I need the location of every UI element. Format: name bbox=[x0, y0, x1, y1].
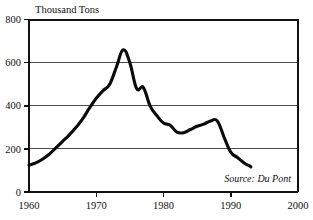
source-note: Source: Du Pont bbox=[224, 173, 291, 184]
line-chart: 0200400600800 19601970198019902000 Thous… bbox=[0, 0, 313, 220]
y-tick-label: 400 bbox=[5, 100, 21, 111]
x-tick-label: 1960 bbox=[19, 200, 40, 211]
chart-background bbox=[0, 0, 313, 220]
y-tick-label: 800 bbox=[5, 14, 21, 25]
chart-container: 0200400600800 19601970198019902000 Thous… bbox=[0, 0, 313, 220]
x-tick-label: 1990 bbox=[220, 200, 241, 211]
chart-axis-title: Thousand Tons bbox=[35, 4, 99, 15]
x-tick-label: 2000 bbox=[288, 200, 309, 211]
y-tick-label: 0 bbox=[16, 187, 21, 198]
y-tick-label: 200 bbox=[5, 144, 21, 155]
x-tick-label: 1980 bbox=[153, 200, 174, 211]
x-tick-label: 1970 bbox=[86, 200, 107, 211]
y-tick-label: 600 bbox=[5, 57, 21, 68]
